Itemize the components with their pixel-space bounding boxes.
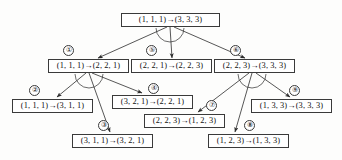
- step-marker-m6: ⑥: [230, 45, 241, 56]
- edge-n1-to-n2: [57, 73, 86, 97]
- node-label: (3, 2, 1)→(2, 2, 1): [121, 98, 184, 106]
- node-n4[interactable]: (3, 2, 1)→(2, 2, 1): [112, 95, 193, 109]
- step-marker-m3: ③: [98, 120, 109, 131]
- node-label: (1, 3, 3)→(3, 3, 3): [260, 102, 323, 110]
- node-label: (1, 2, 3)→(1, 3, 3): [217, 137, 280, 145]
- node-label: (1, 1, 1)→(2, 2, 1): [57, 62, 120, 70]
- step-marker-m8: ⑧: [244, 120, 255, 131]
- step-marker-m1: ①: [63, 45, 74, 56]
- edge-n6-to-n9: [256, 73, 290, 97]
- branch-arc-n1: [75, 74, 103, 88]
- step-marker-m4: ④: [148, 83, 159, 94]
- edge-n1-to-n4: [92, 73, 142, 93]
- branch-arc-root: [156, 28, 184, 42]
- node-n8[interactable]: (1, 2, 3)→(1, 3, 3): [208, 134, 289, 148]
- node-n3[interactable]: (3, 1, 1)→(3, 2, 1): [72, 134, 153, 148]
- node-n1[interactable]: (1, 1, 1)→(2, 2, 1): [48, 59, 129, 73]
- node-label: (2, 2, 1)→(2, 2, 3): [140, 62, 203, 70]
- node-label: (3, 1, 1)→(3, 2, 1): [81, 137, 144, 145]
- diagram-canvas: (1, 1, 1)→(3, 3, 3)(1, 1, 1)→(2, 2, 1)(2…: [0, 0, 342, 160]
- node-label: (1, 1, 1)→(3, 3, 3): [139, 16, 202, 24]
- edge-root-to-n5: [170, 27, 172, 58]
- node-label: (2, 2, 3)→(3, 3, 3): [223, 62, 286, 70]
- node-n2[interactable]: (1, 1, 1)→(3, 1, 1): [12, 99, 93, 113]
- edge-root-to-n1: [98, 27, 167, 58]
- step-marker-m9: ⑨: [289, 85, 300, 96]
- node-n6[interactable]: (2, 2, 3)→(3, 3, 3): [214, 59, 295, 73]
- step-marker-m7: ⑦: [206, 100, 217, 111]
- node-n9[interactable]: (1, 3, 3)→(3, 3, 3): [251, 99, 332, 113]
- node-label: (2, 2, 3)→(1, 2, 3): [153, 117, 216, 125]
- branch-arc-n6: [238, 74, 266, 88]
- node-n5[interactable]: (2, 2, 1)→(2, 2, 3): [131, 59, 212, 73]
- node-n7[interactable]: (2, 2, 3)→(1, 2, 3): [144, 114, 225, 128]
- step-marker-m2: ②: [29, 85, 40, 96]
- node-label: (1, 1, 1)→(3, 1, 1): [21, 102, 84, 110]
- step-marker-m5: ⑤: [146, 45, 157, 56]
- node-root[interactable]: (1, 1, 1)→(3, 3, 3): [121, 13, 220, 27]
